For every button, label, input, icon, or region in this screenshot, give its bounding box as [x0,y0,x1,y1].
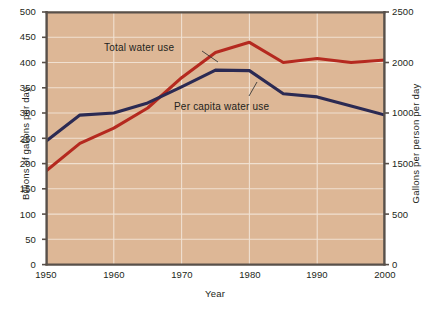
ytick-left-50: 50 [2,234,36,245]
xtick-1990: 1990 [294,269,340,280]
water-use-line-chart [0,0,434,310]
ytick-left-500: 500 [2,6,36,17]
xtick-1950: 1950 [23,269,69,280]
xtick-1970: 1970 [159,269,205,280]
y-axis-label-right: Gallons per person per day [410,59,421,229]
x-axis-label: Year [160,288,270,299]
xtick-2000: 2000 [362,269,408,280]
y-axis-label-left: Billions of gallons per day [20,59,31,229]
ytick-right-2500: 2500 [392,6,432,17]
tick-marks-right [385,12,389,265]
series-label-per-capita-water-use: Per capita water use [174,101,269,112]
ytick-left-450: 450 [2,31,36,42]
xtick-1980: 1980 [227,269,273,280]
chart-figure: 500 450 400 350 300 250 200 150 100 50 0… [0,0,434,310]
series-label-total-water-use: Total water use [104,42,174,53]
xtick-1960: 1960 [91,269,137,280]
